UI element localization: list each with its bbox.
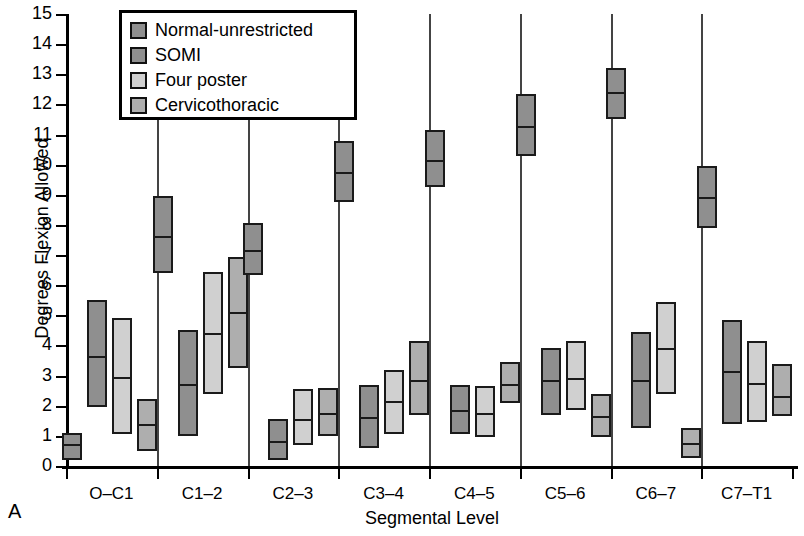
y-tick: 14 bbox=[10, 44, 66, 45]
range-box bbox=[268, 419, 288, 460]
mean-line bbox=[749, 383, 765, 385]
legend-item: Four poster bbox=[130, 68, 348, 93]
range-box bbox=[450, 385, 470, 435]
y-tick-mark bbox=[56, 135, 67, 137]
range-box bbox=[747, 341, 767, 422]
y-tick-label: 3 bbox=[22, 365, 52, 385]
legend-label: Four poster bbox=[155, 71, 247, 90]
x-tick-mark bbox=[338, 467, 340, 479]
group-separator bbox=[701, 14, 703, 466]
mean-line bbox=[699, 197, 715, 199]
legend-item: Normal-unrestricted bbox=[130, 18, 348, 43]
mean-line bbox=[543, 380, 559, 382]
group-separator bbox=[520, 14, 522, 466]
x-tick-mark bbox=[248, 467, 250, 479]
y-tick-label: 14 bbox=[22, 33, 52, 53]
y-tick-mark bbox=[56, 44, 67, 46]
mean-line bbox=[608, 92, 624, 94]
y-tick-mark bbox=[56, 74, 67, 76]
mean-line bbox=[386, 401, 402, 403]
y-tick-label: 2 bbox=[22, 395, 52, 415]
figure-panel-a: Degrees Flexion Allowed Segmental Level … bbox=[0, 0, 804, 536]
y-tick-label: 15 bbox=[22, 3, 52, 23]
y-tick-mark bbox=[56, 225, 67, 227]
range-box bbox=[681, 428, 701, 458]
y-tick-mark bbox=[56, 406, 67, 408]
range-box bbox=[243, 223, 263, 274]
y-tick: 15 bbox=[10, 14, 66, 15]
y-tick: 6 bbox=[10, 285, 66, 286]
x-tick-mark bbox=[66, 467, 68, 479]
legend-swatch-icon bbox=[130, 72, 147, 89]
group-separator bbox=[429, 14, 431, 466]
range-box bbox=[772, 364, 792, 417]
range-box bbox=[591, 394, 611, 438]
y-tick-mark bbox=[56, 14, 67, 16]
y-tick: 1 bbox=[10, 436, 66, 437]
y-tick-mark bbox=[56, 104, 67, 106]
range-box bbox=[697, 166, 717, 228]
mean-line bbox=[633, 380, 649, 382]
y-tick-mark bbox=[56, 315, 67, 317]
mean-line bbox=[180, 384, 196, 386]
x-tick-mark bbox=[792, 467, 794, 479]
y-tick-label: 1 bbox=[22, 425, 52, 445]
mean-line bbox=[139, 424, 155, 426]
y-tick-label: 7 bbox=[22, 244, 52, 264]
range-box bbox=[318, 388, 338, 436]
y-tick-mark bbox=[56, 255, 67, 257]
y-tick-label: 11 bbox=[22, 124, 52, 144]
y-tick-mark bbox=[56, 345, 67, 347]
legend-label: Cervicothoracic bbox=[155, 96, 279, 115]
legend-label: Normal-unrestricted bbox=[155, 21, 313, 40]
mean-line bbox=[114, 377, 130, 379]
y-tick: 4 bbox=[10, 345, 66, 346]
y-tick: 7 bbox=[10, 255, 66, 256]
range-box bbox=[293, 389, 313, 445]
mean-line bbox=[427, 160, 443, 162]
y-tick-label: 10 bbox=[22, 154, 52, 174]
panel-letter: A bbox=[8, 500, 21, 523]
mean-line bbox=[361, 417, 377, 419]
mean-line bbox=[89, 356, 105, 358]
y-tick-label: 13 bbox=[22, 63, 52, 83]
mean-line bbox=[205, 333, 221, 335]
mean-line bbox=[658, 348, 674, 350]
x-tick-mark bbox=[520, 467, 522, 479]
y-tick-mark bbox=[56, 376, 67, 378]
mean-line bbox=[336, 172, 352, 174]
y-tick-label: 5 bbox=[22, 304, 52, 324]
range-box bbox=[153, 196, 173, 273]
y-tick: 5 bbox=[10, 315, 66, 316]
range-box bbox=[606, 68, 626, 119]
legend-swatch-icon bbox=[130, 97, 147, 114]
range-box bbox=[656, 302, 676, 394]
mean-line bbox=[411, 380, 427, 382]
legend-item: Cervicothoracic bbox=[130, 93, 348, 118]
mean-line bbox=[230, 312, 246, 314]
x-tick-mark bbox=[611, 467, 613, 479]
mean-line bbox=[477, 413, 493, 415]
mean-line bbox=[295, 419, 311, 421]
range-box bbox=[409, 341, 429, 415]
y-tick: 11 bbox=[10, 135, 66, 136]
range-box bbox=[475, 386, 495, 437]
y-tick-label: 9 bbox=[22, 184, 52, 204]
x-tick-label: C7–T1 bbox=[692, 484, 802, 504]
range-box bbox=[87, 300, 107, 407]
range-box bbox=[203, 272, 223, 394]
range-box bbox=[425, 130, 445, 187]
legend-swatch-icon bbox=[130, 22, 147, 39]
legend-swatch-icon bbox=[130, 47, 147, 64]
y-tick-mark bbox=[56, 195, 67, 197]
y-tick: 3 bbox=[10, 376, 66, 377]
x-axis-title: Segmental Level bbox=[62, 508, 802, 529]
mean-line bbox=[774, 396, 790, 398]
range-box bbox=[178, 330, 198, 435]
legend-label: SOMI bbox=[155, 46, 201, 65]
y-tick-mark bbox=[56, 285, 67, 287]
y-tick: 10 bbox=[10, 165, 66, 166]
mean-line bbox=[518, 126, 534, 128]
y-tick: 0 bbox=[10, 466, 66, 467]
mean-line bbox=[64, 444, 80, 446]
